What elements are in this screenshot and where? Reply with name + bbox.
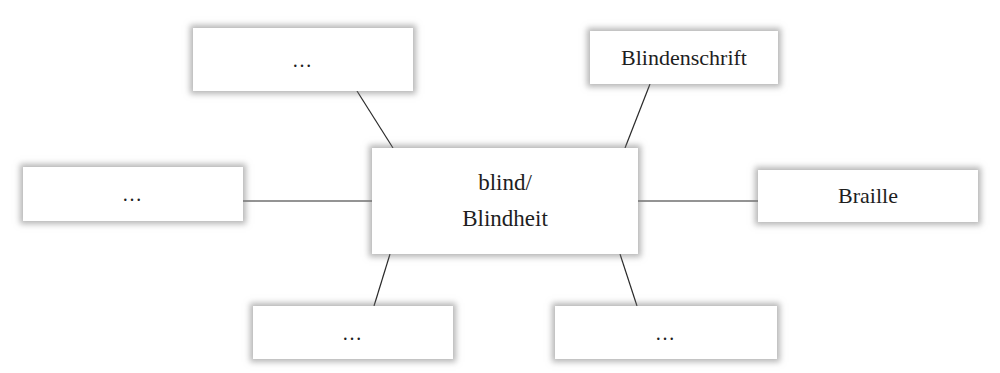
node-top-left: …	[193, 28, 413, 91]
center-label-line1: blind/	[478, 165, 532, 201]
node-right: Braille	[758, 170, 978, 222]
edge-top-right	[625, 84, 650, 148]
node-label: …	[655, 317, 677, 349]
node-label: …	[292, 44, 314, 76]
node-left: …	[23, 167, 243, 221]
node-center: blind/ Blindheit	[372, 148, 638, 254]
edge-bottom-right	[620, 254, 637, 306]
edge-bottom-left	[374, 254, 390, 306]
node-bottom-left: …	[253, 306, 453, 359]
center-label-line2: Blindheit	[462, 201, 548, 237]
node-label: Blindenschrift	[621, 42, 747, 74]
node-label: Braille	[838, 180, 898, 212]
mind-map-diagram: … Blindenschrift … blind/ Blindheit Brai…	[0, 0, 1000, 373]
node-top-right: Blindenschrift	[590, 31, 778, 84]
node-bottom-right: …	[555, 306, 777, 359]
edge-top-left	[357, 91, 393, 148]
node-label: …	[122, 178, 144, 210]
node-label: …	[342, 317, 364, 349]
